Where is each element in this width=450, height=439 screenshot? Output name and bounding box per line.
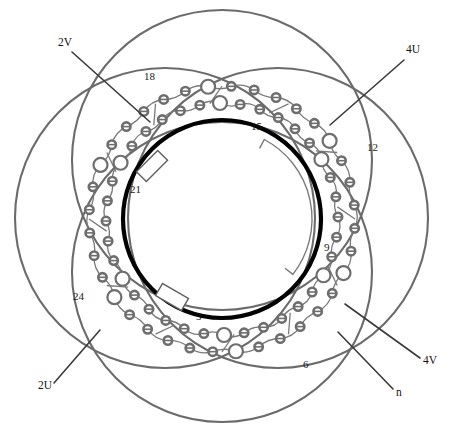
inner-slot-node (116, 272, 130, 286)
outer-slot-node (323, 134, 337, 148)
slot-label-3: 3 (196, 310, 202, 322)
diagram-background (0, 0, 450, 439)
phase-label-n: n (396, 386, 402, 398)
winding-diagram-svg: 2V4U2U4Vn 1815129632124 (0, 0, 450, 439)
outer-slot-node (107, 290, 121, 304)
inner-slot-node (213, 96, 227, 110)
outer-slot-node (229, 344, 243, 358)
phase-label-4V: 4V (423, 354, 438, 366)
phase-label-4U: 4U (406, 43, 421, 55)
outer-slot-node (201, 80, 215, 94)
slot-label-6: 6 (303, 358, 309, 370)
slot-label-21: 21 (130, 183, 141, 195)
slot-label-24: 24 (73, 290, 85, 302)
outer-slot-node (337, 266, 351, 280)
phase-label-2U: 2U (38, 379, 53, 391)
inner-slot-node (316, 268, 330, 282)
outer-slot-node (94, 158, 108, 172)
winding-diagram-root: 2V4U2U4Vn 1815129632124 (0, 0, 450, 439)
slot-label-15: 15 (251, 120, 263, 132)
inner-slot-node (114, 156, 128, 170)
slot-label-12: 12 (367, 141, 378, 153)
inner-slot-node (217, 328, 231, 342)
slot-label-9: 9 (324, 241, 330, 253)
inner-slot-node (314, 152, 328, 166)
phase-label-2V: 2V (58, 36, 73, 48)
slot-label-18: 18 (144, 70, 156, 82)
